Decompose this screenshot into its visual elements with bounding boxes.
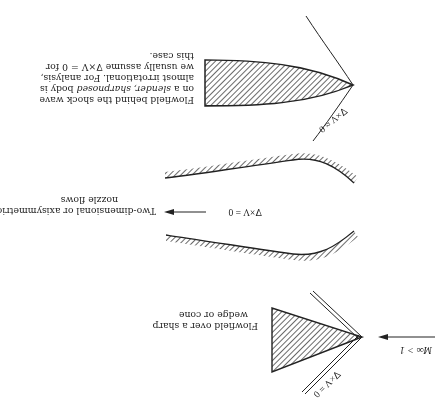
slender-caption-line5: this case. xyxy=(40,51,194,62)
flow-figure: M∞ > 1 ∇×V = 0 Flowfield over a sharp we… xyxy=(0,0,448,412)
nozzle-caption-line2: nozzle flows xyxy=(0,195,156,206)
wedge-caption: Flowfield over a sharp wedge or cone xyxy=(152,310,258,332)
slender-body xyxy=(205,60,353,106)
nozzle-caption-line1: Two-dimensional or axisymmetric xyxy=(0,206,156,217)
freestream-mach-label: M∞ > 1 xyxy=(400,345,432,356)
freestream-arrow-icon xyxy=(378,334,435,340)
nozzle-caption: Two-dimensional or axisymmetric nozzle f… xyxy=(0,195,156,217)
wedge-caption-line2: wedge or cone xyxy=(152,310,258,321)
wedge-caption-line1: Flowfield over a sharp xyxy=(152,321,258,332)
slender-caption-line4: we usually assume ∇×V = 0 for xyxy=(40,62,194,73)
slender-body-caption: Flowfield behind the shock wave on a sle… xyxy=(40,51,194,106)
nozzle-lower-wall xyxy=(165,153,358,183)
nozzle-equation: ∇×V = 0 xyxy=(228,207,262,218)
wedge-body xyxy=(272,308,362,372)
nozzle-upper-wall xyxy=(166,231,358,261)
slender-caption-line3: almost irrotational. For analysis, xyxy=(40,73,194,84)
slender-caption-line2: on a slender, sharpnosed body is xyxy=(40,84,194,95)
wedge-panel xyxy=(272,291,435,394)
nozzle-flow-arrow-icon xyxy=(164,209,206,215)
slender-caption-line1: Flowfield behind the shock wave xyxy=(40,95,194,106)
